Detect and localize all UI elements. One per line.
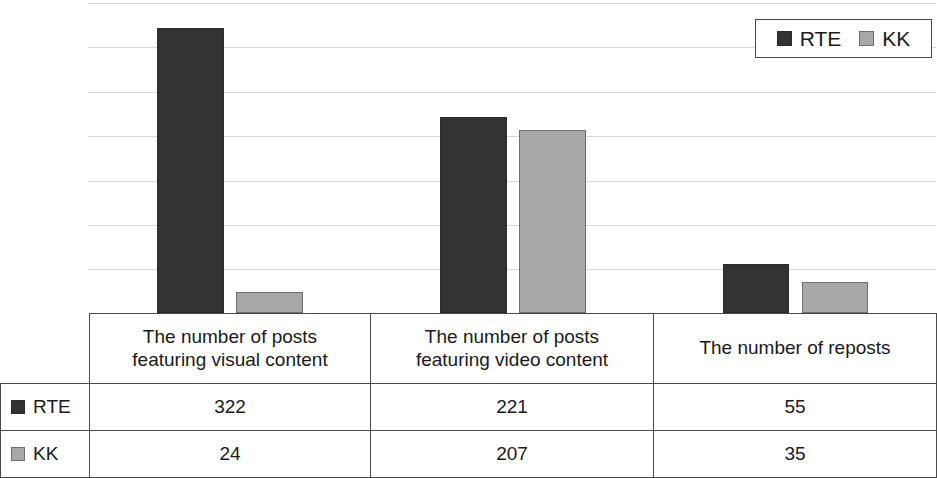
- plot-area: RTE KK: [0, 0, 936, 313]
- bar-rte-video-content: [440, 117, 507, 313]
- header-line-1: The number of posts: [98, 326, 362, 348]
- legend-label-kk: KK: [882, 28, 910, 49]
- chart-data-table: The number of posts featuring visual con…: [0, 313, 936, 475]
- table-series-label-rte: RTE: [1, 384, 90, 431]
- table-cell-kk-visual: 24: [90, 431, 371, 478]
- header-line-2: featuring visual content: [98, 349, 362, 371]
- table-corner-cell: [1, 314, 90, 384]
- table-cell-kk-reposts: 35: [654, 431, 937, 478]
- table-header-video-content: The number of posts featuring video cont…: [371, 314, 654, 384]
- legend-label-rte: RTE: [800, 28, 842, 49]
- header-line-1: The number of reposts: [662, 337, 928, 359]
- dark-square-swatch-icon: [777, 31, 792, 46]
- table-row-rte: RTE 322 221 55: [1, 384, 937, 431]
- table-header-reposts: The number of reposts: [654, 314, 937, 384]
- table-cell-rte-reposts: 55: [654, 384, 937, 431]
- header-line-2: featuring video content: [379, 349, 645, 371]
- legend-entry-kk: KK: [859, 28, 910, 49]
- chart-legend: RTE KK: [755, 19, 932, 58]
- gray-square-swatch-icon: [859, 31, 874, 46]
- header-line-1: The number of posts: [379, 326, 645, 348]
- table-cell-rte-visual: 322: [90, 384, 371, 431]
- series-name-rte: RTE: [33, 396, 71, 418]
- table-series-label-kk: KK: [1, 431, 90, 478]
- table-cell-rte-video: 221: [371, 384, 654, 431]
- table-header-row: The number of posts featuring visual con…: [1, 314, 937, 384]
- bar-kk-video-content: [519, 130, 586, 313]
- dark-square-swatch-icon: [11, 400, 25, 414]
- bar-kk-reposts: [802, 282, 868, 313]
- series-name-kk: KK: [33, 443, 58, 465]
- gray-square-swatch-icon: [11, 447, 25, 461]
- bar-rte-visual-content: [157, 28, 224, 313]
- bar-kk-visual-content: [236, 292, 303, 313]
- table-header-visual-content: The number of posts featuring visual con…: [90, 314, 371, 384]
- bar-rte-reposts: [723, 264, 789, 313]
- table-row-kk: KK 24 207 35: [1, 431, 937, 478]
- table-cell-kk-video: 207: [371, 431, 654, 478]
- legend-entry-rte: RTE: [777, 28, 842, 49]
